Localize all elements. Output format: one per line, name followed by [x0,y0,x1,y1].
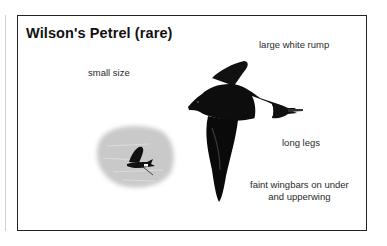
species-title: Wilson's Petrel (rare) [26,25,173,41]
small-bird-illustration [93,122,179,192]
label-white-rump: large white rump [259,39,329,51]
page-margin-line [5,15,6,231]
main-bird-illustration [186,58,306,203]
main-bird-silhouette [188,61,303,202]
label-small-size: small size [88,67,130,79]
species-card: Wilson's Petrel (rare) small size large … [17,15,367,231]
